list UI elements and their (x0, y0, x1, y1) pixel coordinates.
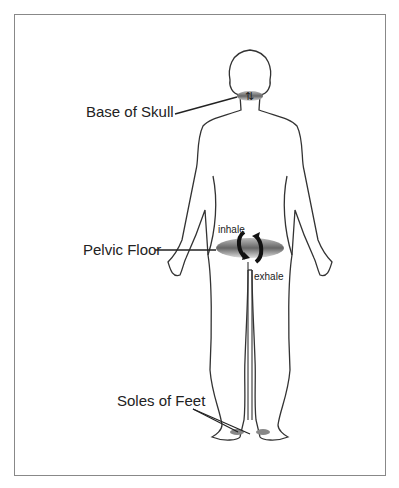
label-soles-of-feet: Soles of Feet (117, 392, 205, 409)
body-diagram: ⇅ (0, 0, 399, 488)
label-inhale: inhale (218, 224, 245, 235)
skull-breath-icon: ⇅ (245, 90, 254, 102)
right-sole-disc (256, 429, 270, 435)
label-pelvic-floor: Pelvic Floor (83, 241, 161, 258)
label-base-of-skull: Base of Skull (86, 103, 174, 120)
pelvic-disc (216, 238, 284, 258)
skull-leader-line (175, 97, 237, 114)
feet-leader-line-2 (193, 409, 238, 432)
label-exhale: exhale (254, 271, 283, 282)
